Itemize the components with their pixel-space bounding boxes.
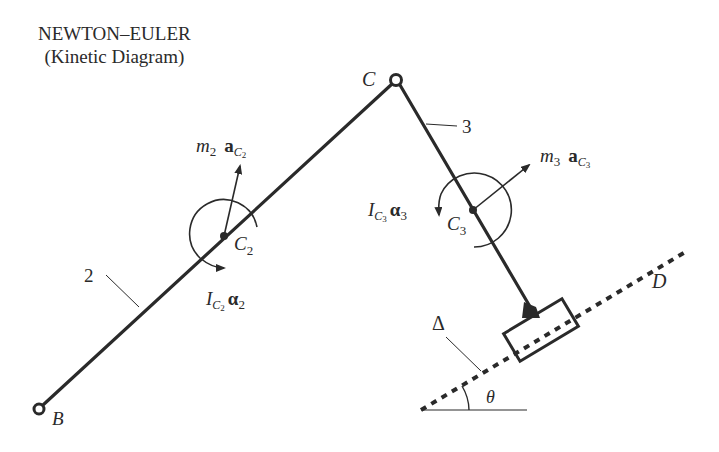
label-inertial-moment-3: IC3α3 (367, 199, 407, 224)
label-c3: C3 (447, 213, 466, 238)
leader-line-delta (446, 337, 481, 371)
slider-pin-weld (522, 302, 540, 318)
label-theta: θ (486, 387, 495, 407)
label-inertial-moment-2: IC2α2 (205, 288, 245, 313)
joint-b (34, 404, 44, 414)
slider-block (504, 299, 579, 361)
label-delta: Δ (432, 312, 445, 334)
label-b: B (52, 408, 64, 429)
inertial-force-arrow-3 (473, 165, 529, 210)
label-link-3: 3 (462, 116, 472, 137)
label-d: D (651, 270, 667, 292)
label-c2: C2 (234, 233, 253, 258)
kinetic-diagram: B C 2 3 D Δ θ C2 C3 m2aC2 IC2α2 m3aC3 IC… (0, 0, 719, 452)
leader-line-3 (426, 124, 457, 126)
link-2 (43, 84, 392, 405)
label-link-2: 2 (84, 265, 94, 286)
angle-arc-theta (462, 386, 469, 410)
joint-c (391, 75, 402, 86)
leader-line-2 (106, 275, 139, 307)
label-inertial-force-2: m2aC2 (196, 135, 246, 160)
slider-guide-d (421, 251, 687, 410)
label-inertial-force-3: m3aC3 (540, 145, 591, 170)
label-c: C (362, 68, 376, 90)
